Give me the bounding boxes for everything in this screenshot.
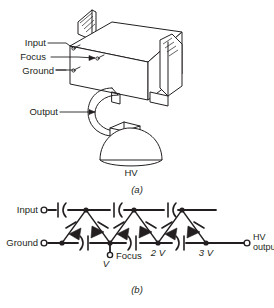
label-hv-output-line2: output: [253, 242, 274, 252]
capacitor-top-2: [114, 203, 122, 217]
panel-a-drawing: Input Focus Ground Output HV (a): [20, 10, 182, 195]
capacitor-top-1: [58, 203, 66, 217]
label-output-a: Output: [29, 106, 58, 117]
panel-b-schematic: Input Ground Focus V 2 V 3 V HV output (…: [6, 203, 274, 295]
capacitor-bottom-1: [80, 236, 88, 250]
capacitor-top-3: [168, 203, 176, 217]
label-v1-b: V: [103, 258, 111, 269]
label-input-b: Input: [17, 204, 38, 215]
focus-tap: [107, 243, 112, 258]
caption-panel-a: (a): [131, 184, 143, 195]
terminal-hv-output-b[interactable]: [244, 240, 250, 246]
diode-5: [162, 222, 177, 240]
hv-dome: [100, 128, 162, 166]
diode-6: [187, 222, 204, 238]
label-hv-output-line1: HV: [253, 232, 266, 242]
label-input-a: Input: [25, 37, 46, 48]
terminal-input-b[interactable]: [41, 207, 47, 213]
diode-4: [139, 222, 156, 238]
caption-panel-b: (b): [131, 284, 143, 295]
capacitor-bottom-3: [176, 236, 184, 250]
diode-2: [91, 222, 108, 238]
figure-svg: Input Focus Ground Output HV (a): [0, 0, 274, 308]
label-ground-a: Ground: [22, 65, 54, 76]
label-v3-b: 3 V: [199, 247, 215, 258]
figure-container: Input Focus Ground Output HV (a): [0, 0, 274, 308]
terminal-ground-b[interactable]: [41, 240, 47, 246]
label-ground-b: Ground: [6, 237, 38, 248]
diode-3: [114, 222, 129, 240]
label-v2-b: 2 V: [150, 247, 167, 258]
label-focus-a: Focus: [20, 51, 46, 62]
diode-1: [66, 222, 81, 240]
label-focus-b: Focus: [116, 250, 142, 261]
label-hv-a: HV: [124, 167, 138, 178]
capacitor-bottom-2: [128, 236, 136, 250]
